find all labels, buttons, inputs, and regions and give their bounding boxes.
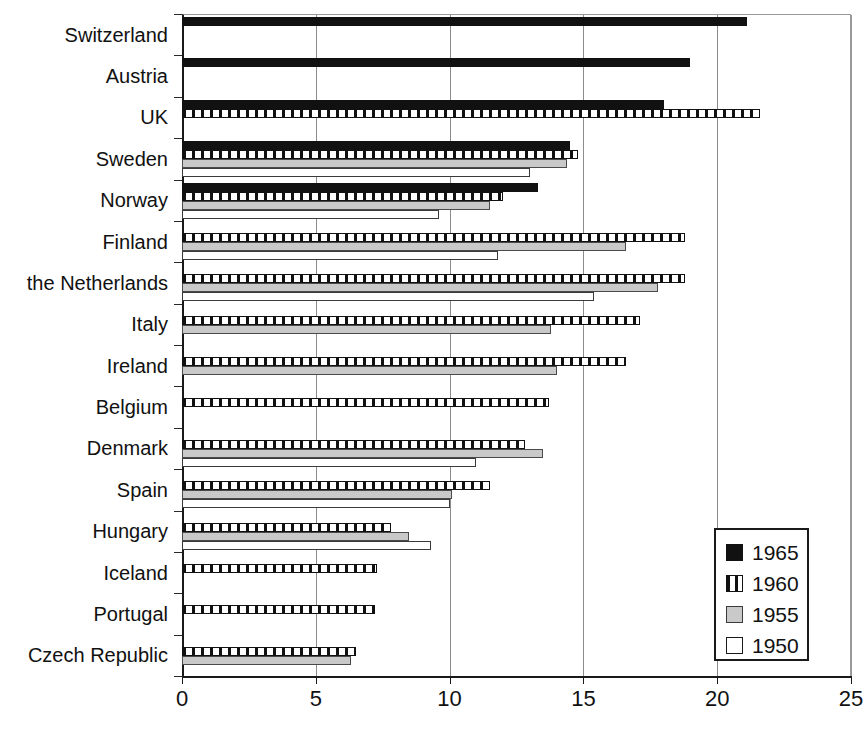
category-tick (174, 635, 182, 636)
bar (182, 325, 551, 334)
bar (182, 532, 409, 541)
category-label-iceland: Iceland (104, 562, 169, 584)
bar (182, 159, 567, 168)
category-tick (174, 262, 182, 263)
category-tick (174, 138, 182, 139)
category-label-italy: Italy (131, 313, 168, 335)
bar (182, 183, 538, 192)
legend-row: 1960 (726, 568, 807, 599)
chart-title (0, 0, 857, 9)
bar (182, 523, 391, 532)
x-tick-label: 5 (286, 686, 346, 712)
bar (182, 150, 578, 159)
legend-swatch-icon (726, 606, 743, 623)
bar (182, 656, 351, 665)
x-tick (717, 676, 718, 684)
bar (182, 58, 690, 67)
bar (182, 316, 640, 325)
bar (182, 458, 476, 467)
bar (182, 357, 626, 366)
legend: 1965196019551950 (714, 528, 809, 661)
category-tick (174, 304, 182, 305)
legend-swatch-icon (726, 544, 743, 561)
x-tick-label: 0 (152, 686, 212, 712)
legend-label: 1965 (752, 542, 799, 563)
category-tick (174, 428, 182, 429)
gridline (851, 15, 852, 676)
category-tick (174, 469, 182, 470)
bar (182, 274, 685, 283)
category-tick (174, 593, 182, 594)
category-tick (174, 552, 182, 553)
bar (182, 481, 490, 490)
category-label-sweden: Sweden (96, 148, 168, 170)
category-tick (174, 55, 182, 56)
x-tick (450, 676, 451, 684)
category-label-portugal: Portugal (94, 603, 169, 625)
x-tick (316, 676, 317, 684)
category-tick (174, 221, 182, 222)
legend-row: 1950 (726, 630, 807, 661)
x-tick (583, 676, 584, 684)
bar (182, 242, 626, 251)
bar (182, 647, 356, 656)
legend-row: 1955 (726, 599, 807, 630)
category-tick (174, 511, 182, 512)
category-tick (174, 676, 182, 677)
bar (182, 440, 525, 449)
category-label-belgium: Belgium (96, 396, 168, 418)
bar (182, 100, 664, 109)
bar (182, 449, 543, 458)
bar (182, 210, 439, 219)
x-tick-label: 20 (687, 686, 747, 712)
category-label-spain: Spain (117, 479, 168, 501)
category-label-norway: Norway (100, 189, 168, 211)
category-label-hungary: Hungary (92, 520, 168, 542)
category-label-switzerland: Switzerland (65, 24, 168, 46)
x-tick (182, 676, 183, 684)
category-label-austria: Austria (106, 65, 168, 87)
bar (182, 201, 490, 210)
x-tick-label: 15 (553, 686, 613, 712)
bar (182, 17, 747, 26)
legend-swatch-icon (726, 637, 743, 654)
bar (182, 605, 375, 614)
category-label-finland: Finland (102, 231, 168, 253)
bar (182, 292, 594, 301)
legend-row: 1965 (726, 537, 807, 568)
category-tick (174, 97, 182, 98)
legend-label: 1950 (752, 635, 799, 656)
category-label-ireland: Ireland (107, 355, 168, 377)
x-axis-line (182, 676, 852, 678)
bar (182, 283, 658, 292)
category-tick (174, 386, 182, 387)
category-label-uk: UK (140, 106, 168, 128)
category-tick (174, 345, 182, 346)
bar (182, 490, 452, 499)
category-label-denmark: Denmark (87, 437, 168, 459)
bar (182, 251, 498, 260)
x-tick-label: 10 (420, 686, 480, 712)
x-tick (851, 676, 852, 684)
bar (182, 398, 549, 407)
bar (182, 233, 685, 242)
legend-swatch-icon (726, 575, 743, 592)
legend-label: 1960 (752, 573, 799, 594)
category-tick (174, 180, 182, 181)
bar (182, 192, 503, 201)
x-tick-label: 25 (821, 686, 867, 712)
bar (182, 541, 431, 550)
category-label-czech-republic: Czech Republic (28, 644, 168, 666)
category-tick (174, 14, 182, 15)
bar (182, 366, 557, 375)
category-label-the-netherlands: the Netherlands (27, 272, 168, 294)
bar (182, 564, 377, 573)
bar (182, 499, 450, 508)
legend-label: 1955 (752, 604, 799, 625)
bar (182, 168, 530, 177)
bar (182, 109, 760, 118)
bar (182, 141, 570, 150)
